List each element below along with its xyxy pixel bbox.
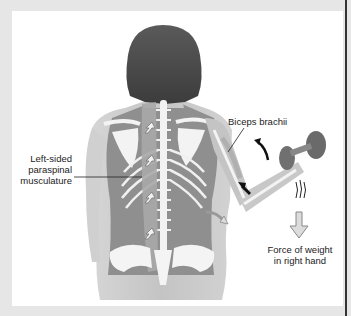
paraspinal-label-line-2: paraspinal [10,164,72,175]
dumbbell [279,131,326,170]
paraspinal-label-line-3: musculature [10,175,72,186]
force-label: Force of weight in right hand [258,244,342,266]
force-label-line-2: in right hand [258,255,342,266]
hair [126,25,201,104]
flexion-arrow-icon [258,142,268,160]
force-label-line-1: Force of weight [258,244,342,255]
paraspinal-label: Left-sided paraspinal musculature [10,153,72,186]
biceps-label: Biceps brachii [228,116,287,127]
forearm-bones [244,170,296,204]
vibration-lines-icon [296,180,306,198]
force-arrow-icon [290,212,308,238]
paraspinal-label-line-1: Left-sided [10,153,72,164]
